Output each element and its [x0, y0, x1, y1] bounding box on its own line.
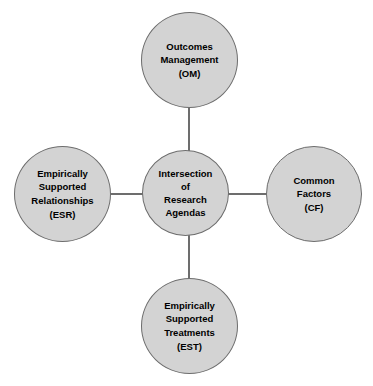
node-empirically-supported-relationships-label: Empirically Supported Relationships (ESR… — [25, 167, 99, 221]
connector-center-to-common-factors — [222, 193, 272, 195]
node-outcomes-management-label: Outcomes Management (OM) — [154, 40, 224, 81]
node-common-factors: Common Factors (CF) — [266, 146, 362, 242]
node-empirically-supported-relationships: Empirically Supported Relationships (ESR… — [14, 146, 111, 242]
node-intersection-of-research-agendas: Intersection of Research Agendas — [142, 150, 229, 236]
node-empirically-supported-treatments-label: Empirically Supported Treatments (EST) — [158, 299, 221, 353]
node-outcomes-management: Outcomes Management (OM) — [141, 12, 238, 108]
connector-center-to-outcomes-management — [188, 100, 190, 156]
node-empirically-supported-treatments: Empirically Supported Treatments (EST) — [141, 278, 238, 374]
node-common-factors-label: Common Factors (CF) — [287, 174, 340, 215]
node-intersection-of-research-agendas-label: Intersection of Research Agendas — [153, 167, 219, 220]
diagram-canvas: Outcomes Management (OM) Empirically Sup… — [0, 0, 373, 386]
